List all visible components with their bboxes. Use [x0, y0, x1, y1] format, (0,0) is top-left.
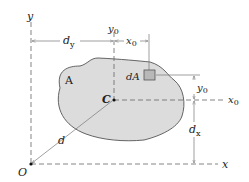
origin-label: O	[18, 166, 27, 179]
x0-axis-label: x0	[228, 94, 239, 107]
y-axis-label: y	[26, 10, 34, 23]
x-axis-label: x	[222, 158, 229, 171]
centroid-label: C	[102, 93, 111, 106]
origin-point	[29, 162, 32, 165]
y0-axis-label-top: y0	[107, 23, 119, 36]
element-label: dA	[126, 71, 140, 82]
parallel-axis-diagram: y x O C A dA d dy x0 y0 y0 dx x0	[0, 0, 249, 182]
area-label: A	[64, 74, 74, 87]
distance-d-label: d	[58, 134, 65, 147]
area-element	[144, 70, 155, 80]
centroid-point	[112, 98, 115, 101]
